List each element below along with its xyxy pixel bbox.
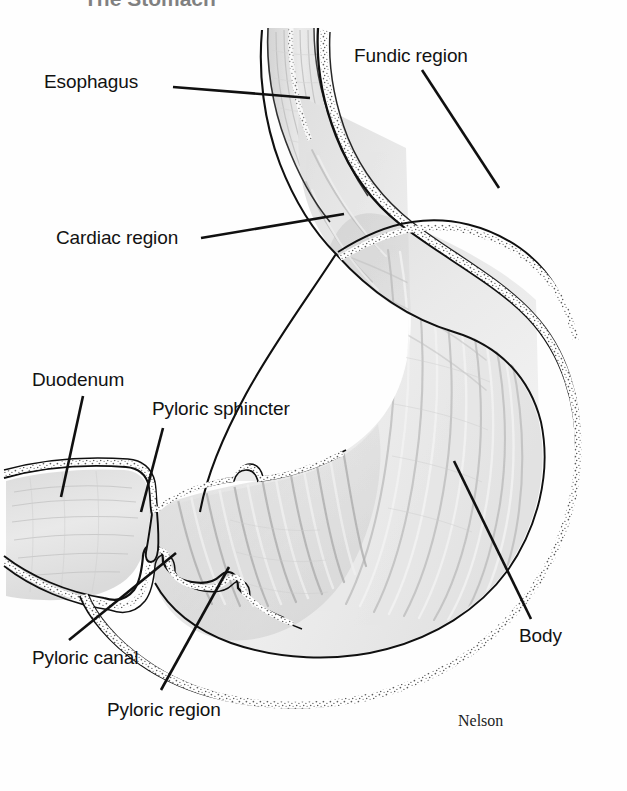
label-duodenum: Duodenum bbox=[32, 370, 124, 389]
label-esophagus: Esophagus bbox=[44, 72, 138, 91]
label-pyloric-region: Pyloric region bbox=[107, 700, 221, 719]
label-pyloric-sphincter: Pyloric sphincter bbox=[152, 399, 290, 418]
label-body: Body bbox=[519, 626, 562, 645]
stomach-diagram-figure: The Stomach bbox=[0, 0, 627, 791]
label-cardiac-region: Cardiac region bbox=[56, 228, 178, 247]
label-fundic-region: Fundic region bbox=[354, 46, 468, 65]
stomach-illustration-svg bbox=[0, 0, 627, 791]
stomach-interior-mucosa bbox=[149, 96, 543, 657]
leader-fundic-region bbox=[422, 70, 499, 188]
duodenum-region bbox=[4, 458, 150, 610]
label-pyloric-canal: Pyloric canal bbox=[32, 648, 138, 667]
artist-signature: Nelson bbox=[458, 713, 503, 729]
